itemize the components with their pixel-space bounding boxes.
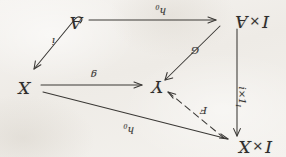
edge-label-F-text: F <box>200 105 207 116</box>
times-operator: × <box>250 139 264 154</box>
node-Y-label: Y <box>151 77 163 97</box>
edge-label-F: F <box>200 105 207 115</box>
edge-label-ix1-sub: I <box>234 104 242 107</box>
node-IxA-right: A <box>235 12 248 32</box>
edge-label-i-text: i <box>52 36 55 47</box>
edge-label-ix1: i×1I <box>235 86 248 107</box>
node-I-times-X: I×X <box>238 138 272 155</box>
commutative-diagram: I×X Y X I×A A h0 F i×1I G g <box>0 0 286 157</box>
figure-canvas: I×X Y X I×A A h0 F i×1I G g <box>0 0 286 157</box>
node-IxX-right: X <box>238 137 251 157</box>
node-IxA-left: I <box>262 12 269 32</box>
node-X: X <box>17 79 30 96</box>
node-I-times-A: I×A <box>235 13 269 30</box>
edge-label-h0-top: h0 <box>123 123 134 136</box>
arrow-g-horizontal <box>41 82 142 88</box>
edge-label-i: i <box>52 36 55 46</box>
node-A: A <box>69 14 82 31</box>
times-operator: × <box>247 14 261 29</box>
node-IxX-left: I <box>265 137 272 157</box>
node-Y: Y <box>151 78 163 95</box>
arrow-h0-bottom <box>89 17 216 23</box>
edge-label-G: G <box>191 45 199 55</box>
edge-label-h0-top-sub: 0 <box>123 122 127 130</box>
node-X-label: X <box>17 78 30 98</box>
edge-label-g: g <box>91 70 97 80</box>
arrow-ix1-vertical <box>234 29 241 136</box>
edge-label-h0-top-text: h <box>128 125 134 136</box>
node-A-label: A <box>69 13 82 33</box>
edge-label-g-text: g <box>91 70 97 81</box>
edge-label-h0-bottom-sub: 0 <box>155 3 159 11</box>
edge-label-h0-bottom: h0 <box>155 4 166 17</box>
edge-label-ix1-text: i×1 <box>237 86 248 104</box>
edge-label-h0-bottom-text: h <box>160 6 166 17</box>
edge-label-G-text: G <box>191 45 199 56</box>
